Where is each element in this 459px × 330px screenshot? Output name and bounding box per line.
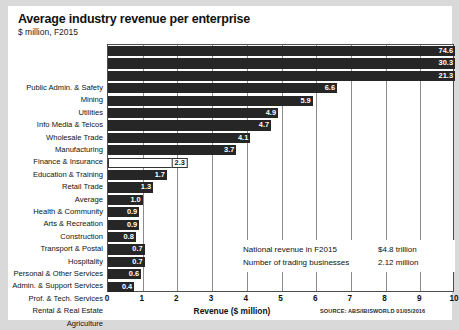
category-label: Average bbox=[10, 195, 103, 205]
category-label: Education & Training bbox=[10, 170, 103, 180]
x-tick-label: 4 bbox=[244, 294, 249, 303]
x-tick-label: 9 bbox=[417, 294, 422, 303]
bar[interactable] bbox=[108, 96, 313, 106]
x-tick-label: 0 bbox=[105, 294, 110, 303]
category-label: Finance & Insurance bbox=[10, 157, 103, 167]
category-label: Admin. & Support Services bbox=[10, 281, 103, 291]
bar-value-label: 4.1 bbox=[236, 133, 250, 143]
bar-value-label: 5.9 bbox=[298, 96, 312, 106]
annotation-label: Number of trading businesses bbox=[243, 256, 378, 269]
annotation-label: National revenue in F2015 bbox=[243, 243, 378, 256]
x-tick-label: 6 bbox=[313, 294, 318, 303]
bar-row: 21.3 bbox=[108, 70, 453, 82]
category-label: Construction bbox=[10, 232, 103, 242]
plot-wrapper: Public Admin. & SafetyMiningUtilitiesInf… bbox=[107, 44, 454, 292]
bar-value-label: 6.6 bbox=[323, 83, 337, 93]
source-note: SOURCE: ABS/IBISWORLD 01/05/2016 bbox=[320, 308, 425, 314]
bar-row: 5.9 bbox=[108, 95, 453, 107]
bar-row: 30.3 bbox=[108, 57, 453, 69]
bar-value-label: 0.7 bbox=[130, 257, 144, 267]
bar[interactable] bbox=[108, 257, 132, 267]
bar-row: 1.0 bbox=[108, 194, 453, 206]
chart-card: Average industry revenue per enterprise … bbox=[8, 6, 452, 320]
bar-value-label: 1.0 bbox=[128, 195, 142, 205]
bar[interactable] bbox=[108, 71, 455, 81]
bar[interactable] bbox=[108, 244, 132, 254]
category-label: Manufacturing bbox=[10, 145, 103, 155]
chart-header: Average industry revenue per enterprise … bbox=[18, 12, 438, 38]
bar-row: 0.9 bbox=[108, 206, 453, 218]
category-label: Personal & Other Services bbox=[10, 269, 103, 279]
bar-value-label: 1.7 bbox=[153, 170, 167, 180]
bar[interactable] bbox=[108, 108, 278, 118]
category-label: Arts & Recreation bbox=[10, 219, 103, 229]
bar-value-label: 74.6 bbox=[437, 46, 455, 56]
bar-row: 4.7 bbox=[108, 119, 453, 131]
bar-value-label: 4.9 bbox=[264, 108, 278, 118]
x-tick-label: 10 bbox=[449, 294, 458, 303]
x-tick-label: 3 bbox=[209, 294, 214, 303]
category-label: Prof. & Tech. Services bbox=[10, 294, 103, 304]
category-label: Rental & Real Estate bbox=[10, 306, 103, 316]
category-label: Agriculture bbox=[10, 319, 103, 329]
category-label: Hospitality bbox=[10, 257, 103, 267]
chart-subtitle: $ million, F2015 bbox=[18, 27, 438, 38]
category-label: Wholesale Trade bbox=[10, 133, 103, 143]
bar-row: 6.6 bbox=[108, 82, 453, 94]
x-tick-label: 1 bbox=[139, 294, 144, 303]
x-tick-label: 7 bbox=[348, 294, 353, 303]
bar-row: 1.7 bbox=[108, 169, 453, 181]
bar-row: 1.3 bbox=[108, 181, 453, 193]
bar[interactable] bbox=[108, 133, 250, 143]
plot-area: 74.630.321.36.65.94.94.74.13.72.31.71.31… bbox=[107, 44, 454, 292]
x-tick-label: 5 bbox=[278, 294, 283, 303]
bar-value-label: 4.7 bbox=[257, 120, 271, 130]
bar-row: 4.9 bbox=[108, 107, 453, 119]
bar-value-label: 0.8 bbox=[121, 232, 135, 242]
x-tick-label: 2 bbox=[174, 294, 179, 303]
x-tick-label: 8 bbox=[382, 294, 387, 303]
bar-value-label: 0.7 bbox=[130, 244, 144, 254]
bar-value-label: 2.3 bbox=[172, 158, 188, 168]
bar-row: 0.4 bbox=[108, 281, 453, 293]
bar[interactable] bbox=[108, 269, 129, 279]
annotation-value: 2.12 million bbox=[378, 256, 418, 269]
bar-row: 3.7 bbox=[108, 144, 453, 156]
category-label: Retail Trade bbox=[10, 182, 103, 192]
bar-value-label: 0.9 bbox=[125, 207, 139, 217]
bar-value-label: 0.9 bbox=[125, 220, 139, 230]
bar-row: 0.9 bbox=[108, 219, 453, 231]
category-axis-labels: Public Admin. & SafetyMiningUtilitiesInf… bbox=[10, 82, 103, 330]
bar-value-label: 0.6 bbox=[127, 269, 141, 279]
annotation-row: National revenue in F2015$4.8 trillion bbox=[243, 243, 455, 256]
category-label: Info Media & Telcos bbox=[10, 120, 103, 130]
category-label: Health & Community bbox=[10, 207, 103, 217]
bar[interactable] bbox=[108, 120, 271, 130]
category-label: Transport & Postal bbox=[10, 244, 103, 254]
bar-row: 4.1 bbox=[108, 132, 453, 144]
category-label: Public Admin. & Safety bbox=[10, 83, 103, 93]
page-title: Average industry revenue per enterprise bbox=[18, 12, 438, 27]
annotation-row: Number of trading businesses2.12 million bbox=[243, 256, 455, 269]
category-label: Mining bbox=[10, 95, 103, 105]
bar-value-label: 0.4 bbox=[120, 282, 134, 292]
annotation-block: National revenue in F2015$4.8 trillionNu… bbox=[243, 240, 455, 272]
bar-value-label: 21.3 bbox=[437, 71, 455, 81]
bar[interactable] bbox=[108, 46, 455, 56]
bar-row: 2.3 bbox=[108, 157, 453, 169]
x-axis-ticks: 012345678910 bbox=[107, 294, 454, 306]
bar[interactable] bbox=[108, 58, 455, 68]
bar-value-label: 3.7 bbox=[222, 145, 236, 155]
bar-row: 74.6 bbox=[108, 45, 453, 57]
bar-value-label: 1.3 bbox=[139, 182, 153, 192]
annotation-value: $4.8 trillion bbox=[378, 243, 417, 256]
bar[interactable] bbox=[108, 83, 337, 93]
bar-value-label: 30.3 bbox=[437, 58, 455, 68]
bar[interactable] bbox=[108, 145, 236, 155]
category-label: Utilities bbox=[10, 108, 103, 118]
